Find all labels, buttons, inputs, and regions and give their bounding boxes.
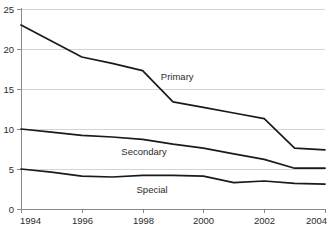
y-tick-labels-group: 0510152025 xyxy=(3,4,14,215)
x-tick-label: 1998 xyxy=(133,215,154,226)
series-label-secondary: Secondary xyxy=(121,146,167,157)
series-label-special: Special xyxy=(137,184,168,195)
y-tick-label: 5 xyxy=(9,164,14,175)
y-tick-label: 10 xyxy=(3,124,14,135)
x-tick-labels-group: 199419961998200020022004 xyxy=(20,215,327,226)
series-group xyxy=(21,25,325,184)
y-tick-label: 20 xyxy=(3,44,14,55)
x-tick-label: 2002 xyxy=(254,215,275,226)
gridlines-group xyxy=(21,10,325,170)
y-tick-label: 15 xyxy=(3,84,14,95)
chart-canvas: 0510152025 199419961998200020022004 Prim… xyxy=(0,0,334,232)
line-chart: 0510152025 199419961998200020022004 Prim… xyxy=(0,0,334,232)
y-tick-label: 25 xyxy=(3,4,14,15)
x-tick-label: 2004 xyxy=(306,215,327,226)
y-tick-label: 0 xyxy=(9,204,14,215)
series-line-primary xyxy=(21,25,325,150)
series-line-secondary xyxy=(21,129,325,168)
x-tick-label: 1996 xyxy=(72,215,93,226)
series-label-primary: Primary xyxy=(161,71,194,82)
axes-group xyxy=(21,8,325,210)
series-line-special xyxy=(21,169,325,184)
x-tick-label: 2000 xyxy=(193,215,214,226)
x-tick-label: 1994 xyxy=(20,215,41,226)
